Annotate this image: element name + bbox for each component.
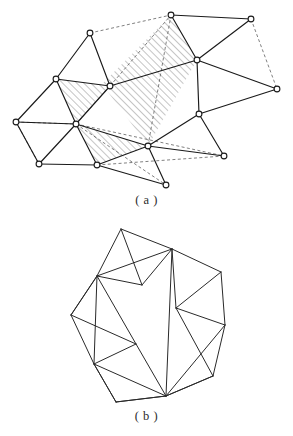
figure-b-edge	[71, 315, 136, 344]
figure-b-edge	[121, 229, 172, 249]
figure-b-edge	[94, 364, 166, 396]
hatched-regions-group	[56, 15, 197, 165]
figure-b-edge	[136, 344, 166, 396]
vertex-node	[194, 57, 200, 63]
figure-b-edge	[71, 276, 97, 315]
figure-b-edge	[97, 276, 142, 285]
vertex-node	[36, 161, 42, 167]
solid-edge	[97, 165, 166, 185]
figure-b-edge	[94, 344, 136, 364]
vertex-node	[87, 30, 93, 36]
figure-b-edge	[94, 276, 97, 364]
figure-b-edge	[121, 229, 142, 285]
solid-edge	[56, 33, 90, 79]
vertex-node	[274, 86, 280, 92]
solid-edge	[197, 19, 251, 60]
figure-b-edge	[166, 249, 172, 396]
vertex-node	[53, 76, 59, 82]
figure-b-edge	[97, 276, 136, 344]
caption-b: ( b )	[0, 409, 293, 424]
solid-edge	[148, 146, 224, 156]
figure-b-edge	[71, 315, 94, 364]
figure-container: ( a ) ( b )	[0, 0, 293, 436]
figure-b-edge	[116, 396, 166, 402]
solid-edge	[16, 122, 39, 164]
vertex-node	[13, 119, 19, 125]
solid-edge	[171, 15, 251, 19]
figure-b-edge	[166, 376, 213, 396]
vertex-node	[221, 153, 227, 159]
solid-edge	[199, 89, 277, 114]
solid-edge	[16, 122, 76, 124]
vertex-node	[168, 12, 174, 18]
solid-edge	[16, 79, 56, 122]
vertex-node	[107, 83, 113, 89]
figure-b-edge	[172, 249, 221, 272]
vertex-node	[248, 16, 254, 22]
figure-b-diagram	[0, 220, 293, 420]
solid-edge	[39, 164, 97, 165]
solid-edge	[90, 33, 110, 86]
figure-b-edge	[94, 364, 116, 402]
vertex-node	[196, 111, 202, 117]
solid-edge	[199, 114, 224, 156]
figure-b-edge	[176, 272, 221, 308]
upper-left-hatched-triangle	[56, 79, 110, 124]
vertex-node	[94, 162, 100, 168]
vertex-node	[163, 182, 169, 188]
solid-edge	[197, 60, 199, 114]
solid-edge	[197, 60, 277, 89]
figure-b-edge	[172, 249, 176, 308]
figure-b-edges-group	[71, 229, 225, 402]
vertex-node	[73, 121, 79, 127]
figure-b-edge	[221, 272, 225, 325]
figure-a-diagram	[0, 0, 293, 200]
figure-b-edge	[176, 308, 213, 376]
dashed-edge	[251, 19, 277, 89]
vertex-node	[145, 143, 151, 149]
solid-edge	[39, 124, 76, 164]
caption-a: ( a )	[0, 193, 293, 208]
